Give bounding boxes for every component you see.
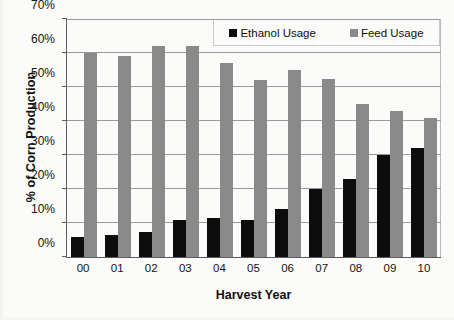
- bar-ethanol: [309, 189, 322, 257]
- bar-ethanol: [411, 148, 424, 257]
- bar-groups: [67, 19, 441, 257]
- bar-ethanol: [173, 220, 186, 257]
- bar-feed: [288, 70, 301, 257]
- bar-feed: [118, 56, 131, 257]
- bar-group: [203, 19, 237, 257]
- bar-chart: % of Corn Production 0%10%20%30%40%50%60…: [0, 0, 454, 320]
- x-axis-title: Harvest Year: [66, 288, 441, 302]
- x-axis-tick-label: 00: [66, 262, 100, 274]
- legend-item-label: Ethanol Usage: [240, 27, 315, 39]
- bar-group: [407, 19, 441, 257]
- bar-group: [271, 19, 305, 257]
- bar-group: [135, 19, 169, 257]
- bar-ethanol: [275, 209, 288, 257]
- x-axis-tick-label: 10: [407, 262, 441, 274]
- bar-feed: [424, 118, 437, 257]
- bar-group: [169, 19, 203, 257]
- y-axis-tick-label: 0%: [9, 236, 55, 250]
- y-axis-tick-label: 10%: [9, 202, 55, 216]
- bar-feed: [254, 80, 267, 257]
- bar-ethanol: [71, 237, 84, 257]
- bar-group: [305, 19, 339, 257]
- x-axis-tick-label: 09: [373, 262, 407, 274]
- x-axis-tick-label: 08: [339, 262, 373, 274]
- bar-group: [373, 19, 407, 257]
- bar-feed: [390, 111, 403, 257]
- y-axis-tick-label: 60%: [9, 32, 55, 46]
- x-axis-tick-label: 05: [236, 262, 270, 274]
- bar-feed: [356, 104, 369, 257]
- bar-ethanol: [241, 220, 254, 257]
- scan-edge-left: [0, 0, 3, 320]
- x-axis-tick-label: 01: [100, 262, 134, 274]
- bar-feed: [152, 46, 165, 257]
- y-axis-tick-label: 70%: [9, 0, 55, 12]
- bar-ethanol: [343, 179, 356, 257]
- x-axis-tick-label: 02: [134, 262, 168, 274]
- legend-item: Ethanol Usage: [229, 27, 315, 39]
- bar-feed: [220, 63, 233, 257]
- y-axis-tick-label: 50%: [9, 66, 55, 80]
- legend-item: Feed Usage: [350, 27, 424, 39]
- chart-legend: Ethanol UsageFeed Usage: [213, 20, 440, 46]
- bar-ethanol: [105, 235, 118, 257]
- bar-feed: [84, 53, 97, 257]
- bar-ethanol: [139, 232, 152, 258]
- y-axis-tick-label: 30%: [9, 134, 55, 148]
- x-axis-tick-labels: 0001020304050607080910: [66, 262, 441, 274]
- y-axis-tick-label: 20%: [9, 168, 55, 182]
- x-axis-tick-label: 06: [271, 262, 305, 274]
- legend-item-label: Feed Usage: [361, 27, 424, 39]
- feed-swatch-icon: [350, 29, 358, 37]
- x-axis-tick-label: 03: [168, 262, 202, 274]
- bar-ethanol: [207, 218, 220, 257]
- bar-group: [67, 19, 101, 257]
- bar-group: [101, 19, 135, 257]
- bar-group: [339, 19, 373, 257]
- plot-area: 0%10%20%30%40%50%60%70%: [66, 19, 441, 258]
- bar-feed: [186, 46, 199, 257]
- x-axis-tick-label: 07: [305, 262, 339, 274]
- x-axis-tick-label: 04: [202, 262, 236, 274]
- bar-ethanol: [377, 155, 390, 257]
- bar-group: [237, 19, 271, 257]
- bar-feed: [322, 79, 335, 258]
- y-axis-tick-label: 40%: [9, 100, 55, 114]
- ethanol-swatch-icon: [229, 29, 237, 37]
